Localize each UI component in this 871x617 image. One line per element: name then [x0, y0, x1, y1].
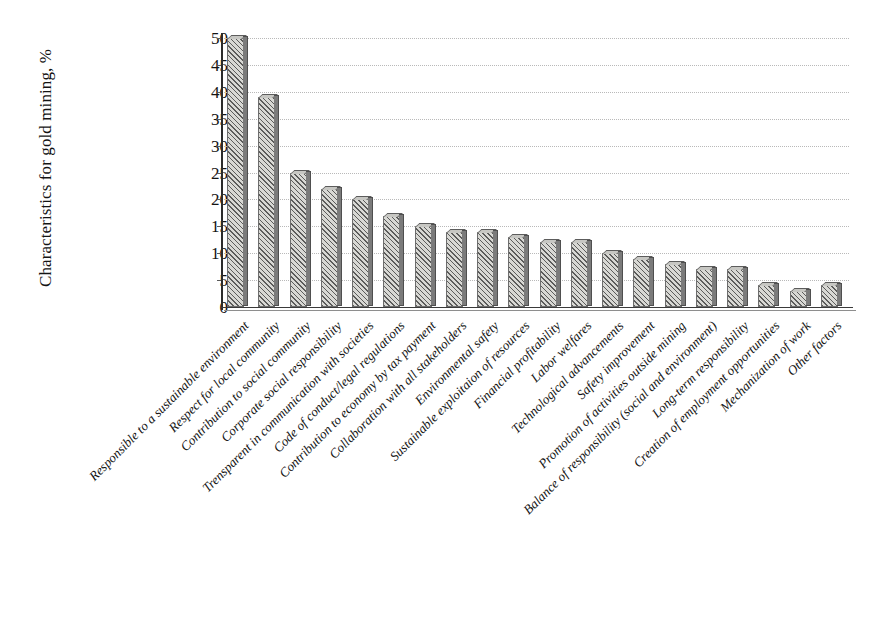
bar[interactable]	[602, 253, 619, 307]
bar[interactable]	[508, 237, 525, 307]
bar[interactable]	[227, 38, 244, 307]
bar[interactable]	[290, 173, 307, 308]
bar-slot	[599, 38, 630, 307]
bar-slot	[318, 38, 349, 307]
bar[interactable]	[633, 259, 650, 307]
bar-slot	[349, 38, 380, 307]
bar-slot	[787, 38, 818, 307]
bar-slot	[412, 38, 443, 307]
bar-slot	[255, 38, 286, 307]
bar-slot	[662, 38, 693, 307]
bar-slot	[724, 38, 755, 307]
bar[interactable]	[727, 269, 744, 307]
x-axis-line	[221, 307, 853, 308]
bar[interactable]	[821, 285, 838, 307]
bar[interactable]	[665, 264, 682, 307]
bar[interactable]	[758, 285, 775, 307]
bar-chart-figure: Characteristics for gold mining, % 05101…	[0, 0, 871, 617]
bar-slot	[630, 38, 661, 307]
bar-slot	[380, 38, 411, 307]
bar-slot	[287, 38, 318, 307]
y-axis-title: Characteristics for gold mining, %	[36, 18, 56, 318]
bar[interactable]	[446, 232, 463, 307]
y-axis-line	[221, 33, 223, 310]
plot-area	[224, 38, 849, 307]
bar-slot	[755, 38, 786, 307]
bar[interactable]	[352, 199, 369, 307]
bar[interactable]	[477, 232, 494, 307]
bar-slot	[818, 38, 849, 307]
bar[interactable]	[540, 242, 557, 307]
bar-slot	[224, 38, 255, 307]
bar-slot	[505, 38, 536, 307]
bar[interactable]	[696, 269, 713, 307]
bar-slot	[693, 38, 724, 307]
bar[interactable]	[571, 242, 588, 307]
bar-slot	[443, 38, 474, 307]
bar[interactable]	[321, 189, 338, 307]
bar[interactable]	[258, 97, 275, 307]
bar[interactable]	[415, 226, 432, 307]
bar[interactable]	[383, 216, 400, 307]
bar-slot	[537, 38, 568, 307]
bar-slot	[568, 38, 599, 307]
bar-slot	[474, 38, 505, 307]
bar[interactable]	[790, 291, 807, 307]
x-axis-line-shadow	[224, 310, 856, 311]
